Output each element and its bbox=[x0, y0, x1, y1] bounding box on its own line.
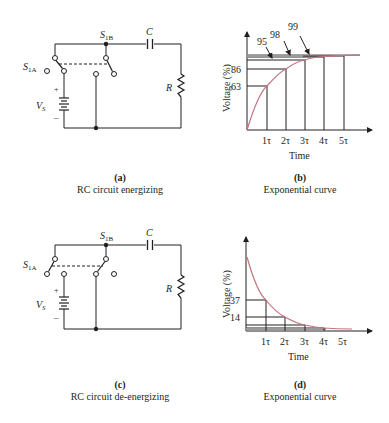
resistor-label: R bbox=[165, 82, 172, 93]
switch-contact bbox=[62, 272, 67, 277]
capacitor-label: C bbox=[146, 227, 153, 238]
x-axis-title: Time bbox=[289, 150, 310, 161]
plus-sign: + bbox=[54, 85, 59, 94]
annot-99: 99 bbox=[288, 21, 298, 32]
switch-blade bbox=[107, 61, 113, 72]
xtick-1: 1τ bbox=[262, 135, 271, 146]
xtick-2: 2τ bbox=[281, 135, 290, 146]
xtick-4: 4τ bbox=[319, 135, 328, 146]
xtick-2: 2τ bbox=[280, 336, 289, 347]
xtick-3: 3τ bbox=[300, 336, 309, 347]
plus-sign: + bbox=[54, 286, 59, 295]
figure-canvas: S1B C R S1A + – VS 95 98 99 8 bbox=[0, 0, 389, 423]
capacitor-label: C bbox=[146, 26, 153, 37]
switch-contact bbox=[94, 72, 99, 77]
caption-c: (c) RC circuit de-energizing bbox=[40, 379, 200, 403]
minus-sign: – bbox=[53, 112, 59, 122]
source-label: VS bbox=[36, 100, 46, 113]
switch-a-label: S1A bbox=[23, 259, 37, 272]
xtick-5: 5τ bbox=[339, 135, 348, 146]
arrow-99 bbox=[300, 36, 309, 54]
switch-contact bbox=[112, 72, 117, 77]
caption-d: (d) Exponential curve bbox=[230, 379, 370, 403]
caption-text-a: RC circuit energizing bbox=[77, 184, 163, 195]
discharging-curve bbox=[247, 257, 352, 329]
y-axis-title: Voltage (%) bbox=[221, 64, 233, 112]
capacitor-icon bbox=[148, 39, 153, 49]
switch-contact bbox=[112, 272, 117, 277]
capacitor-icon bbox=[148, 240, 153, 250]
x-axis-title: Time bbox=[288, 351, 309, 362]
switch-contact bbox=[94, 272, 99, 277]
xtick-4: 4τ bbox=[319, 336, 328, 347]
caption-a: (a) RC circuit energizing bbox=[40, 172, 200, 196]
junction-dot bbox=[104, 42, 108, 46]
source-label: VS bbox=[36, 299, 46, 312]
resistor-icon bbox=[178, 74, 184, 97]
battery-icon bbox=[59, 98, 69, 110]
arrow-98 bbox=[284, 41, 290, 55]
switch-contact bbox=[45, 272, 50, 277]
switch-contact bbox=[53, 257, 58, 262]
xtick-3: 3τ bbox=[300, 135, 309, 146]
junction-dot bbox=[94, 126, 98, 130]
panel-letter-c: (c) bbox=[40, 379, 200, 391]
minus-sign: – bbox=[53, 312, 59, 322]
charging-curve bbox=[247, 55, 360, 130]
ytick-86: 86 bbox=[231, 64, 241, 75]
panel-letter-b: (b) bbox=[230, 172, 370, 184]
caption-text-b: Exponential curve bbox=[263, 184, 336, 195]
panel-letter-d: (d) bbox=[230, 379, 370, 391]
switch-b-label: S1B bbox=[100, 29, 114, 42]
ytick-63: 63 bbox=[231, 81, 241, 92]
switch-b-label: S1B bbox=[100, 230, 114, 243]
xtick-1: 1τ bbox=[261, 336, 270, 347]
switch-contact bbox=[45, 69, 50, 74]
resistor-icon bbox=[178, 275, 184, 298]
battery-icon bbox=[59, 297, 69, 309]
circuit-c bbox=[45, 240, 185, 331]
chart-d bbox=[246, 237, 372, 331]
y-axis-title: Voltage (%) bbox=[221, 270, 233, 318]
caption-b: (b) Exponential curve bbox=[230, 172, 370, 196]
resistor-label: R bbox=[165, 283, 172, 294]
caption-text-c: RC circuit de-energizing bbox=[71, 391, 170, 402]
circuit-a bbox=[45, 39, 185, 130]
annot-95: 95 bbox=[257, 36, 267, 47]
junction-dot bbox=[94, 327, 98, 331]
switch-contact bbox=[53, 56, 58, 61]
xtick-5: 5τ bbox=[338, 336, 347, 347]
switch-contact bbox=[104, 56, 109, 61]
annot-98: 98 bbox=[270, 29, 280, 40]
caption-text-d: Exponential curve bbox=[263, 391, 336, 402]
switch-contact bbox=[104, 257, 109, 262]
switch-a-label: S1A bbox=[23, 61, 37, 74]
switch-contact bbox=[62, 69, 67, 74]
panel-letter-a: (a) bbox=[40, 172, 200, 184]
junction-dot bbox=[104, 243, 108, 247]
